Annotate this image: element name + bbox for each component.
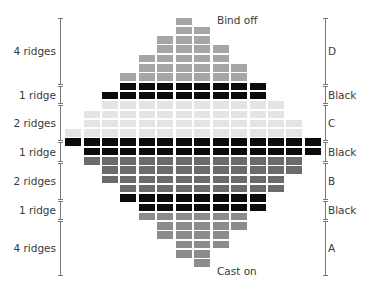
left-bracket-label: 1 ridge bbox=[0, 146, 56, 158]
stitch-cell-black bbox=[176, 138, 192, 146]
stitch-cell-black bbox=[286, 148, 302, 156]
stitch-cell-b bbox=[231, 176, 247, 184]
stitch-cell-b bbox=[157, 176, 173, 184]
stitch-cell-black bbox=[213, 138, 229, 146]
stitch-cell-a bbox=[213, 231, 229, 239]
stitch-cell-black bbox=[157, 92, 173, 100]
cast-on-label: Cast on bbox=[217, 265, 257, 277]
stitch-cell-black bbox=[120, 138, 136, 146]
stitch-cell-b bbox=[102, 166, 118, 174]
stitch-cell-black bbox=[176, 204, 192, 212]
stitch-cell-b bbox=[213, 185, 229, 193]
stitch-cell-black bbox=[250, 148, 266, 156]
stitch-cell-black bbox=[139, 138, 155, 146]
stitch-cell-b bbox=[176, 185, 192, 193]
stitch-cell-b bbox=[194, 185, 210, 193]
stitch-cell-b bbox=[286, 166, 302, 174]
bracket-tick bbox=[58, 142, 63, 143]
stitch-cell-black bbox=[157, 148, 173, 156]
stitch-cell-c bbox=[120, 120, 136, 128]
bracket-tick bbox=[58, 275, 63, 276]
bracket-tick bbox=[58, 221, 63, 222]
stitch-cell-black bbox=[305, 138, 321, 146]
stitch-cell-b bbox=[286, 157, 302, 165]
stitch-cell-black bbox=[84, 148, 100, 156]
left-bracket-label: 4 ridges bbox=[0, 242, 56, 254]
stitch-cell-black bbox=[213, 83, 229, 91]
left-bracket-label: 1 ridge bbox=[0, 204, 56, 216]
stitch-cell-c bbox=[213, 120, 229, 128]
stitch-cell-black bbox=[102, 138, 118, 146]
left-bracket-label: 1 ridge bbox=[0, 89, 56, 101]
stitch-cell-c bbox=[157, 120, 173, 128]
stitch-cell-b bbox=[139, 166, 155, 174]
stitch-cell-c bbox=[157, 129, 173, 137]
bracket-tick bbox=[323, 18, 328, 19]
stitch-cell-black bbox=[157, 194, 173, 202]
stitch-cell-black bbox=[139, 194, 155, 202]
stitch-cell-a bbox=[194, 259, 210, 267]
knitting-chart: 4 ridges1 ridge2 ridges1 ridge2 ridges1 … bbox=[0, 0, 370, 293]
stitch-cell-c bbox=[176, 101, 192, 109]
bracket-tick bbox=[58, 161, 63, 162]
bracket-tick bbox=[58, 163, 63, 164]
bracket-line bbox=[325, 18, 326, 84]
stitch-cell-c bbox=[176, 129, 192, 137]
stitch-cell-c bbox=[194, 101, 210, 109]
bracket-tick bbox=[58, 105, 63, 106]
stitch-cell-b bbox=[268, 185, 284, 193]
stitch-cell-d bbox=[176, 64, 192, 72]
bracket-line bbox=[60, 105, 61, 140]
stitch-cell-a bbox=[176, 241, 192, 249]
stitch-cell-d bbox=[176, 27, 192, 35]
stitch-cell-a bbox=[176, 231, 192, 239]
stitch-cell-b bbox=[120, 185, 136, 193]
bracket-line bbox=[60, 201, 61, 219]
stitch-cell-d bbox=[213, 55, 229, 63]
stitch-cell-a bbox=[213, 241, 229, 249]
stitch-cell-c bbox=[250, 129, 266, 137]
stitch-cell-black bbox=[139, 92, 155, 100]
stitch-cell-c bbox=[213, 111, 229, 119]
stitch-cell-c bbox=[231, 101, 247, 109]
stitch-cell-black bbox=[194, 204, 210, 212]
stitch-cell-d bbox=[157, 45, 173, 53]
stitch-cell-c bbox=[120, 111, 136, 119]
stitch-cell-b bbox=[157, 166, 173, 174]
stitch-cell-black bbox=[102, 148, 118, 156]
stitch-cell-c bbox=[250, 101, 266, 109]
stitch-cell-c bbox=[102, 111, 118, 119]
stitch-cell-b bbox=[157, 185, 173, 193]
stitch-cell-a bbox=[194, 241, 210, 249]
stitch-cell-d bbox=[194, 27, 210, 35]
stitch-cell-black bbox=[250, 204, 266, 212]
stitch-cell-b bbox=[213, 166, 229, 174]
stitch-cell-b bbox=[268, 176, 284, 184]
stitch-cell-d bbox=[139, 64, 155, 72]
stitch-cell-black bbox=[250, 92, 266, 100]
bracket-tick bbox=[323, 161, 328, 162]
stitch-cell-d bbox=[157, 55, 173, 63]
stitch-cell-d bbox=[194, 64, 210, 72]
stitch-cell-d bbox=[213, 73, 229, 81]
bracket-tick bbox=[58, 199, 63, 200]
stitch-cell-a bbox=[213, 213, 229, 221]
bracket-tick bbox=[58, 84, 63, 85]
stitch-cell-b bbox=[120, 157, 136, 165]
stitch-cell-d bbox=[194, 45, 210, 53]
stitch-cell-d bbox=[176, 73, 192, 81]
stitch-cell-black bbox=[139, 148, 155, 156]
right-bracket-label: Black bbox=[328, 89, 356, 101]
stitch-cell-black bbox=[250, 83, 266, 91]
bracket-tick bbox=[323, 163, 328, 164]
stitch-cell-black bbox=[194, 92, 210, 100]
stitch-cell-b bbox=[268, 166, 284, 174]
stitch-cell-b bbox=[213, 157, 229, 165]
bracket-tick bbox=[58, 18, 63, 19]
stitch-cell-d bbox=[157, 64, 173, 72]
stitch-cell-c bbox=[194, 120, 210, 128]
stitch-cell-c bbox=[213, 129, 229, 137]
stitch-cell-c bbox=[139, 101, 155, 109]
stitch-cell-b bbox=[157, 157, 173, 165]
right-bracket-label: C bbox=[328, 117, 335, 129]
